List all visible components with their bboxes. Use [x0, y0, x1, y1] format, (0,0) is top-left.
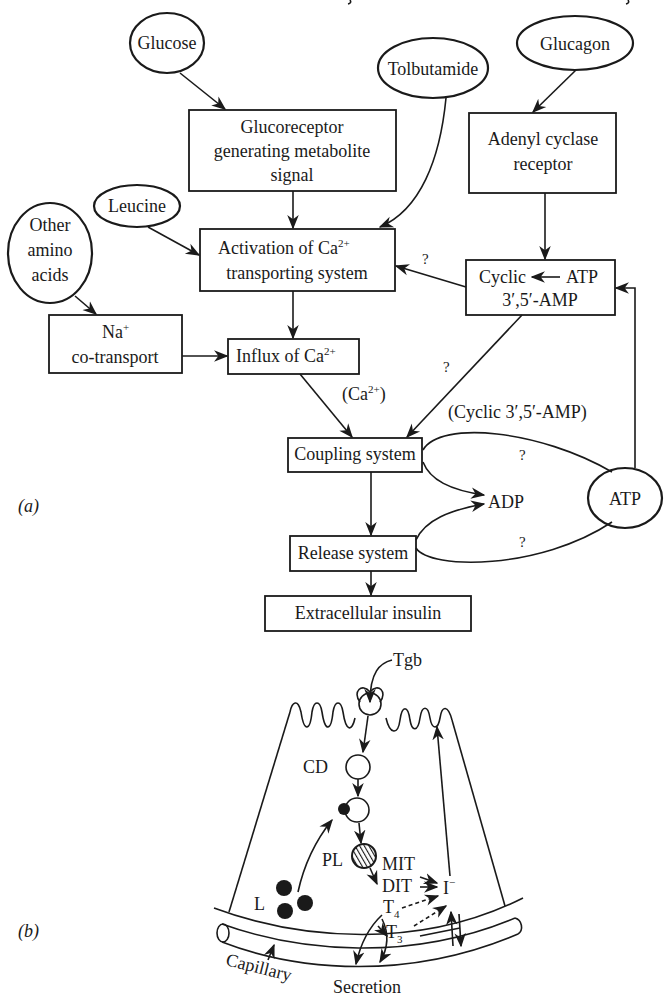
coupling-label: Coupling system — [294, 444, 416, 464]
cell-wall-right — [452, 720, 505, 906]
adp-label: ADP — [488, 492, 524, 512]
leucine-label: Leucine — [108, 196, 166, 216]
tolbutamide-node: Tolbutamide — [378, 38, 488, 98]
pl-label: PL — [322, 850, 343, 870]
question-mark-3: ? — [519, 447, 526, 463]
secretion-label: Secretion — [333, 977, 401, 997]
question-mark-1: ? — [422, 251, 429, 267]
mit-to-iodide-arrow — [420, 877, 437, 883]
coupling-system-box: Coupling system — [288, 438, 422, 472]
glucoreceptor-line3: signal — [271, 165, 314, 185]
tgb-arrow — [370, 660, 392, 702]
other-amino-acids-line1: Other — [30, 215, 71, 235]
apical-membrane — [290, 703, 452, 731]
extracellular-label: Extracellular insulin — [295, 603, 441, 623]
cd-label: CD — [303, 757, 328, 777]
iodide-label: I− — [443, 876, 455, 898]
cropped-header-fragment — [348, 0, 351, 4]
panel-b-label: (b) — [18, 921, 39, 942]
lysosome-2 — [277, 903, 293, 919]
glucose-label: Glucose — [138, 33, 197, 53]
glucoreceptor-line2: generating metabolite — [214, 141, 370, 161]
panel-a: Glucose Tolbutamide Glucagon Glucorecept… — [8, 0, 662, 631]
cyclic-label: Cyclic — [479, 267, 526, 287]
atp-label: ATP — [609, 489, 641, 509]
lysosome-1 — [276, 880, 292, 896]
na-cotransport-box: Na+ co-transport — [49, 315, 182, 373]
other-amino-acids-node: Other amino acids — [8, 203, 92, 303]
activation-line1: Activation of Ca2+ — [218, 237, 350, 258]
ca-edge-label: (Ca2+) — [342, 383, 386, 405]
secretion-arrow-1 — [356, 915, 382, 964]
other-amino-acids-line2: amino — [28, 240, 73, 260]
l-label: L — [254, 894, 265, 914]
vesicle-to-cd-arrow — [363, 716, 368, 752]
dit-label: DIT — [382, 876, 412, 896]
adenyl-cyclase-line1: Adenyl cyclase — [488, 129, 598, 149]
release-system-box: Release system — [290, 536, 416, 571]
mit-label: MIT — [382, 854, 415, 874]
phagolysosome — [352, 844, 376, 868]
glucagon-label: Glucagon — [540, 34, 610, 54]
other-amino-acids-line3: acids — [32, 265, 69, 285]
capillary-end — [515, 918, 522, 934]
t4-label: T4 — [383, 897, 400, 920]
glucoreceptor-line1: Glucoreceptor — [241, 117, 344, 137]
fusion-to-pl-arrow — [359, 823, 361, 843]
capillary-opening — [217, 924, 229, 942]
glucoreceptor-box: Glucoreceptor generating metabolite sign… — [189, 110, 396, 191]
activation-ca-box: Activation of Ca2+ transporting system — [200, 229, 395, 291]
atp-in-box-label: ATP — [566, 267, 598, 287]
cyclic-amp-line2: 3′,5′-AMP — [502, 290, 577, 310]
glucagon-node: Glucagon — [517, 16, 633, 70]
lysosome-fused — [338, 803, 350, 815]
question-mark-2: ? — [443, 359, 450, 375]
atp-node: ATP — [588, 468, 662, 528]
influx-ca-box: Influx of Ca2+ — [228, 339, 359, 374]
tolbutamide-label: Tolbutamide — [388, 59, 479, 79]
lysosome-3 — [297, 895, 313, 911]
iodide-recycle-arrow — [437, 727, 450, 876]
extracellular-insulin-box: Extracellular insulin — [265, 596, 471, 631]
panel-a-label: (a) — [18, 496, 39, 517]
figure-canvas: Glucose Tolbutamide Glucagon Glucorecept… — [0, 0, 669, 998]
colloid-droplet — [346, 755, 370, 779]
leucine-node: Leucine — [94, 185, 180, 227]
cropped-header-fragment-2 — [626, 0, 629, 4]
tgb-label: Tgb — [393, 650, 422, 670]
t4-to-iodide-arrow — [402, 896, 438, 908]
na-line2: co-transport — [72, 347, 159, 367]
t3-to-iodide-arrow — [414, 906, 446, 926]
influx-label: Influx of Ca2+ — [236, 345, 336, 366]
activation-line2: transporting system — [226, 263, 368, 283]
adenyl-cyclase-box: Adenyl cyclase receptor — [469, 113, 616, 193]
pl-to-dit-arrow — [370, 868, 377, 884]
panel-b: (b) Tgb CD PL L MIT DIT I− — [18, 650, 523, 997]
capillary-label: Capillary — [224, 949, 294, 985]
cyclic-amp-box: Cyclic ATP 3′,5′-AMP — [466, 260, 615, 315]
release-label: Release system — [298, 543, 408, 563]
question-mark-4: ? — [519, 534, 526, 550]
glucose-node: Glucose — [130, 13, 204, 73]
cyclic-amp-edge-label: (Cyclic 3′,5′-AMP) — [448, 402, 587, 423]
iodide-efflux-arrow — [459, 914, 461, 946]
adenyl-cyclase-line2: receptor — [514, 154, 573, 174]
